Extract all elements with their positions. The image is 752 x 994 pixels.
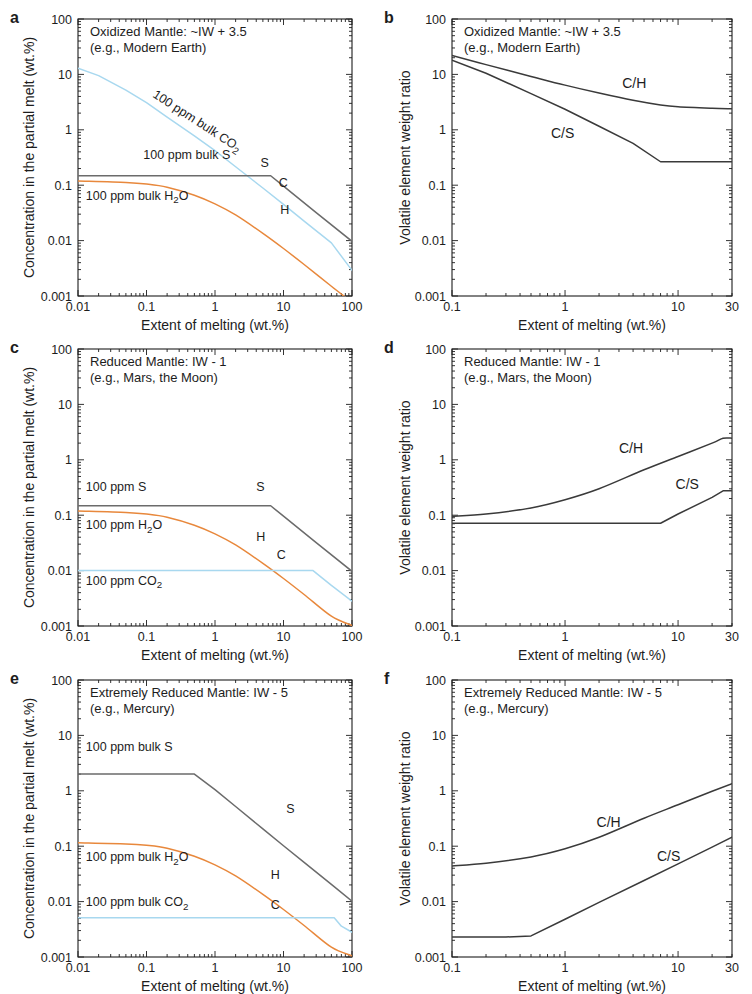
panel-f-ytick-4: 10: [432, 729, 446, 743]
panel-f-ytick-2: 0.1: [429, 840, 446, 854]
panel-f-series-group: [452, 784, 732, 937]
panel-f-ytick-5: 100: [425, 674, 446, 688]
panel-f-label-CS: C/S: [657, 848, 680, 864]
panel-f-title-line2: (e.g., Mercury): [464, 701, 549, 716]
plot-frame: [452, 680, 732, 957]
panel-f-xaxis-title: Extent of melting (wt.%): [518, 978, 666, 994]
panel-f-yaxis-title: Volatile element weight ratio: [397, 731, 413, 906]
panel-f-ytick-0: 0.001: [415, 951, 446, 965]
figure-root: a0.010.11101000.0010.010.1110100Extent o…: [0, 0, 752, 994]
panel-f-label-CH: C/H: [597, 814, 621, 830]
panel-f-letter: f: [384, 670, 390, 687]
panel-f-curve-C-H: [452, 784, 732, 866]
panel-f-xtick-1: 1: [562, 961, 569, 975]
panel-f-xtick-2: 10: [671, 961, 685, 975]
axis-ticks: [452, 680, 732, 957]
panel-f-xtick-3: 30: [725, 961, 739, 975]
panel-f-curve-C-S: [452, 837, 732, 937]
panel-f-title-line1: Extremely Reduced Mantle: IW - 5: [464, 685, 662, 700]
panel-f-ytick-3: 1: [439, 784, 446, 798]
panel-f-plot: f0.1110300.0010.010.1110100Extent of mel…: [0, 0, 752, 994]
panel-f-ytick-1: 0.01: [422, 895, 446, 909]
panel-f: f0.1110300.0010.010.1110100Extent of mel…: [0, 0, 752, 994]
